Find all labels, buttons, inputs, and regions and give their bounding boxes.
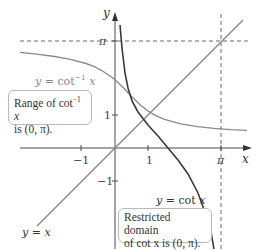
x-tick-label-pi: π bbox=[216, 154, 225, 167]
range-callout-line2: is (0, π). bbox=[14, 123, 86, 136]
y-tick-label-1: 1 bbox=[104, 109, 111, 122]
x-axis-label: x bbox=[242, 152, 249, 166]
identity-label: y = x bbox=[21, 226, 51, 239]
range-callout-line1: Range of cot−1 x bbox=[14, 93, 86, 123]
x-tick-label-neg1: −1 bbox=[73, 154, 89, 167]
y-tick-label-neg1: −1 bbox=[97, 175, 113, 188]
arccot-label: y = cot−1 x bbox=[34, 73, 96, 88]
domain-callout: Restricted domain of cot x is (0, π). bbox=[118, 208, 212, 243]
y-axis-arrow-icon bbox=[112, 12, 118, 21]
x-tick-label-1: 1 bbox=[146, 154, 153, 167]
range-callout: Range of cot−1 x is (0, π). bbox=[8, 90, 92, 125]
y-axis-label: y bbox=[102, 6, 110, 20]
cot-label: y = cot x bbox=[155, 194, 206, 207]
x-axis-arrow-icon bbox=[243, 145, 252, 151]
domain-callout-line2: of cot x is (0, π). bbox=[124, 237, 206, 250]
y-tick-label-pi: π bbox=[98, 35, 107, 48]
domain-callout-line1: Restricted domain bbox=[124, 211, 206, 237]
